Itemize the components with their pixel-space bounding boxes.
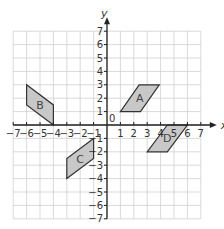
- shape-label-a: A: [136, 92, 144, 105]
- x-tick-label: 7: [198, 128, 204, 139]
- y-tick-label: 1: [97, 106, 103, 117]
- y-tick-label: −6: [88, 200, 103, 211]
- x-tick-label: 1: [117, 128, 123, 139]
- x-axis-label: x: [220, 119, 224, 132]
- y-tick-label: −2: [88, 146, 103, 157]
- y-tick-label: 6: [97, 39, 103, 50]
- x-tick-label: 6: [184, 128, 190, 139]
- shape-label-b: B: [36, 99, 44, 112]
- shape-label-c: C: [76, 153, 84, 166]
- x-tick-label: 5: [171, 128, 177, 139]
- y-axis-label: y: [100, 7, 108, 20]
- y-tick-label: 5: [97, 53, 103, 64]
- x-axis-arrow-icon: [210, 122, 217, 128]
- y-tick-label: 2: [97, 93, 103, 104]
- y-tick-label: 4: [97, 66, 103, 77]
- y-tick-label: −1: [88, 133, 103, 144]
- y-tick-label: 7: [97, 26, 103, 37]
- y-tick-label: −7: [88, 213, 103, 224]
- x-tick-label: 4: [157, 128, 163, 139]
- coordinate-grid: ABCDxy−7−6−5−4−3−2−112345677654321−1−2−3…: [0, 0, 224, 229]
- y-tick-label: 3: [97, 79, 103, 90]
- x-tick-label: 3: [144, 128, 150, 139]
- y-tick-label: −4: [88, 173, 103, 184]
- x-tick-label: 2: [131, 128, 137, 139]
- y-tick-label: −3: [88, 160, 103, 171]
- origin-label: 0: [109, 113, 115, 124]
- y-tick-label: −5: [88, 187, 103, 198]
